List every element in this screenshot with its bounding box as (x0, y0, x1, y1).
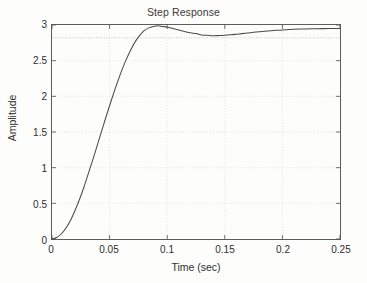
y-tick-label: 0.5 (33, 199, 47, 210)
y-tick-label: 3 (41, 19, 47, 30)
x-tick-label: 0.2 (276, 244, 290, 255)
plot-area (51, 24, 341, 240)
x-tick-label: 0 (48, 244, 54, 255)
chart-figure: Step Response Amplitude 00.511.522.53 00… (0, 0, 367, 283)
y-tick-label: 1.5 (33, 127, 47, 138)
x-tick-label: 0.15 (215, 244, 234, 255)
x-axis-tick-labels: 00.050.10.150.20.25 (51, 244, 341, 258)
y-tick-label: 1 (41, 163, 47, 174)
y-tick-label: 0 (41, 235, 47, 246)
x-axis-label: Time (sec) (51, 261, 341, 273)
step-response-curve (52, 25, 340, 239)
y-tick-label: 2.5 (33, 55, 47, 66)
y-tick-label: 2 (41, 91, 47, 102)
x-tick-label: 0.25 (331, 244, 350, 255)
chart-title: Step Response (0, 6, 367, 18)
y-axis-tick-labels: 00.511.522.53 (14, 24, 47, 240)
x-tick-label: 0.1 (160, 244, 174, 255)
x-tick-label: 0.05 (99, 244, 118, 255)
